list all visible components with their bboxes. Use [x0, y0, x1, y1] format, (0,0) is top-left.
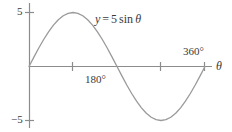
- x-axis-tick-label-360: 360°: [183, 46, 204, 57]
- equation-function-name: sin: [117, 12, 133, 26]
- x-axis-label-theta: θ: [216, 60, 222, 72]
- equation-equals-sign: =: [100, 12, 111, 26]
- equation-annotation: y=5sinθ: [95, 13, 141, 25]
- sine-curve-figure: 5 −5 180° 360° θ y=5sinθ: [0, 0, 232, 132]
- equation-variable: θ: [133, 12, 141, 26]
- y-axis-tick-label-5: 5: [17, 6, 23, 17]
- x-axis-tick-label-180: 180°: [85, 74, 106, 85]
- y-axis-tick-label-negative-5: −5: [11, 114, 23, 125]
